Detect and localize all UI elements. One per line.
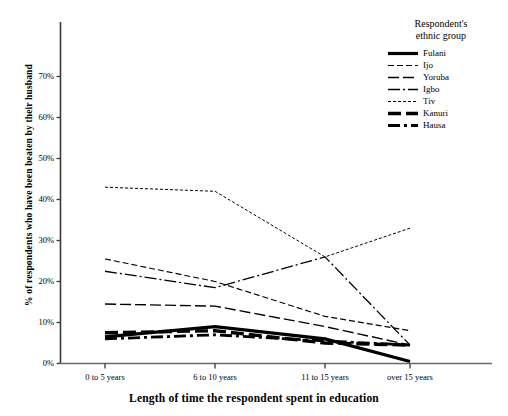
legend-item-igbo[interactable]: Igbo xyxy=(388,84,504,96)
legend-label: Yoruba xyxy=(423,73,449,82)
chart-container: % of respondents who have been beaten by… xyxy=(0,0,508,416)
legend-swatch-kanuri xyxy=(388,108,418,119)
legend-swatch-fulani xyxy=(388,48,418,59)
x-tick-label: 6 to 10 years xyxy=(193,373,237,382)
legend-item-fulani[interactable]: Fulani xyxy=(388,48,504,60)
series-lines xyxy=(105,187,410,361)
legend-swatch-igbo xyxy=(388,84,418,95)
legend-label: Kanuri xyxy=(423,109,448,118)
legend-swatch-tiv xyxy=(388,96,418,107)
y-tick-label: 60% xyxy=(18,113,54,122)
y-tick-label: 0% xyxy=(18,359,54,368)
legend-title-line1: Respondent's xyxy=(378,18,504,30)
legend-swatch-yoruba xyxy=(388,72,418,83)
legend-label: Ijo xyxy=(423,61,433,70)
legend-swatch-hausa xyxy=(388,120,418,131)
legend-item-ijo[interactable]: Ijo xyxy=(388,60,504,72)
legend-swatch-ijo xyxy=(388,60,418,71)
y-tick-label: 20% xyxy=(18,277,54,286)
x-tick-label: 11 to 15 years xyxy=(301,373,349,382)
series-line-yoruba xyxy=(105,304,410,345)
y-tick-label: 40% xyxy=(18,195,54,204)
legend-item-hausa[interactable]: Hausa xyxy=(388,120,504,132)
legend-title: Respondent's ethnic group xyxy=(378,18,504,42)
legend-item-yoruba[interactable]: Yoruba xyxy=(388,72,504,84)
legend-label: Igbo xyxy=(423,85,440,94)
x-tick-marks xyxy=(105,364,410,369)
y-tick-label: 70% xyxy=(18,72,54,81)
legend-label: Tiv xyxy=(423,97,435,106)
x-tick-label: 0 to 5 years xyxy=(85,373,124,382)
series-line-ijo xyxy=(105,259,410,331)
series-line-tiv xyxy=(105,187,410,257)
legend: Respondent's ethnic group FulaniIjoYorub… xyxy=(378,18,504,132)
legend-label: Hausa xyxy=(423,121,446,130)
legend-items: FulaniIjoYorubaIgboTivKanuriHausa xyxy=(378,48,504,132)
y-tick-label: 10% xyxy=(18,318,54,327)
y-tick-label: 50% xyxy=(18,154,54,163)
legend-item-tiv[interactable]: Tiv xyxy=(388,96,504,108)
x-tick-label: over 15 years xyxy=(387,373,433,382)
legend-item-kanuri[interactable]: Kanuri xyxy=(388,108,504,120)
legend-label: Fulani xyxy=(423,49,446,58)
y-tick-label: 30% xyxy=(18,236,54,245)
legend-title-line2: ethnic group xyxy=(378,30,504,42)
